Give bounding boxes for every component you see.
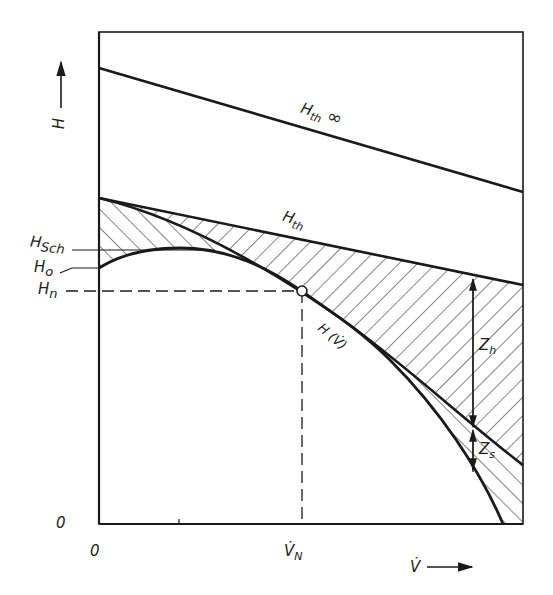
h-th-inf-line: [99, 68, 523, 192]
y-origin-label: 0: [56, 516, 66, 531]
ho-leader: [60, 268, 99, 273]
zs-label-sub: s: [489, 448, 495, 461]
vn-label-sub: N: [294, 550, 302, 563]
zs-label: Zs: [479, 442, 495, 460]
operating-point-marker: [297, 286, 307, 296]
zh-label-main: Z: [479, 336, 489, 354]
hsch-label: HSch: [29, 234, 66, 256]
v-axis-label: V̇: [410, 560, 420, 575]
zh-label: Zh: [479, 338, 496, 356]
hn-label-sub: n: [49, 286, 57, 301]
vn-label-main: V̇: [284, 542, 294, 560]
hn-label-main: H: [38, 280, 49, 298]
hn-label: Hn: [38, 282, 58, 300]
hsch-label-sub: Sch: [40, 239, 65, 256]
h-axis-label: H: [52, 118, 67, 129]
vn-label: V̇N: [284, 544, 303, 562]
zs-label-main: Z: [479, 440, 489, 458]
pump-characteristic-diagram: [0, 0, 553, 595]
ho-label: Ho: [34, 260, 53, 278]
ho-label-main: H: [34, 258, 45, 276]
zh-label-sub: h: [489, 344, 496, 357]
ho-label-sub: o: [45, 264, 53, 279]
x-origin-label: 0: [90, 544, 100, 559]
